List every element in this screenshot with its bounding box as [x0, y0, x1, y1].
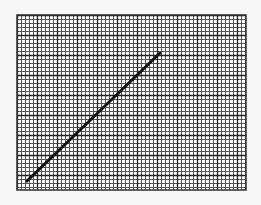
grid-chart [0, 0, 261, 205]
